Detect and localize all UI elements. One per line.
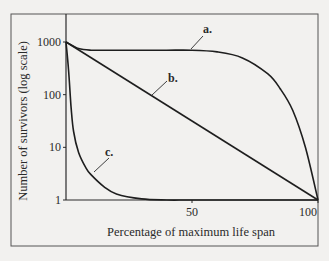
x-tick-label: 100: [299, 205, 317, 219]
x-axis-ticks: 50100: [186, 200, 318, 219]
label-c-leader-line: [94, 158, 109, 172]
y-axis-title: Number of survivors (log scale): [16, 41, 30, 201]
chart-svg: 1101001000 50100 a. b. c. Percentage of …: [0, 0, 329, 261]
y-tick-label: 1: [55, 193, 61, 207]
curve-c-label: c.: [105, 145, 113, 159]
y-axis-ticks: 1101001000: [37, 35, 66, 207]
y-tick-label: 1000: [37, 35, 61, 49]
label-a-leader-line: [191, 36, 203, 49]
axes: [66, 14, 318, 200]
curve-b-type-ii: [66, 42, 318, 200]
y-tick-label: 10: [49, 140, 61, 154]
curve-a-label: a.: [203, 22, 212, 36]
y-tick-label: 100: [43, 88, 61, 102]
x-tick-label: 50: [186, 205, 198, 219]
x-axis-title: Percentage of maximum life span: [107, 225, 276, 239]
survivorship-curves: [66, 42, 318, 200]
label-b-leader-line: [152, 81, 167, 95]
survivorship-chart: 1101001000 50100 a. b. c. Percentage of …: [0, 0, 329, 261]
curve-b-label: b.: [168, 71, 178, 85]
